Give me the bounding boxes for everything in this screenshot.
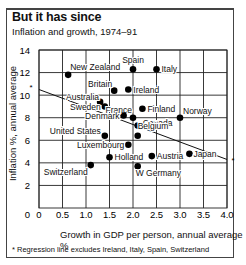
x-tick-label: 3.0 (173, 209, 186, 220)
data-point (139, 105, 146, 112)
x-tick-label: 1.0 (79, 209, 92, 220)
regression-asterisk: * (231, 156, 234, 165)
point-label: Ireland (133, 85, 159, 95)
y-tick-label: 2 (25, 180, 30, 191)
point-label: Switzerland (44, 167, 88, 177)
data-point (149, 153, 156, 160)
data-point (125, 142, 132, 149)
x-tick-label: 0.5 (56, 209, 69, 220)
x-tick-label: 1.5 (103, 209, 116, 220)
data-point (65, 72, 72, 79)
point-label: New Zealand (70, 62, 120, 72)
data-point (186, 151, 193, 158)
data-point (153, 66, 160, 73)
point-label: Japan (193, 149, 216, 159)
point-label: Spain (122, 55, 144, 65)
y-tick-label: 12 (19, 67, 30, 78)
x-tick-label: 4.0 (220, 209, 233, 220)
scatter-plot: 00.51.01.52.02.53.03.54.024681012140**Ne… (0, 0, 246, 265)
point-label: United States (50, 126, 101, 136)
data-point (106, 154, 113, 161)
point-label: Luxembourg (77, 140, 125, 150)
y-tick-label: 0 (25, 209, 30, 220)
point-label: Denmark (85, 111, 120, 121)
data-point (130, 114, 137, 121)
x-tick-label: 3.5 (197, 209, 210, 220)
point-label: Britain (88, 79, 112, 89)
regression-asterisk: * (29, 83, 32, 92)
data-point (87, 162, 94, 169)
point-label: Belgium (138, 121, 169, 131)
point-label: Italy (162, 64, 178, 74)
point-label: Australia (66, 92, 99, 102)
y-tick-label: 8 (25, 112, 30, 123)
point-label: W Germany (136, 168, 182, 178)
x-tick-label: 2.5 (150, 209, 163, 220)
point-label: Holland (115, 152, 144, 162)
y-tick-label: 14 (19, 45, 30, 56)
data-point (102, 132, 109, 139)
y-tick-label: 10 (19, 90, 30, 101)
x-tick-label: 0 (36, 209, 41, 220)
point-label: Finland (147, 104, 175, 114)
y-tick-label: 4 (25, 157, 30, 168)
x-tick-label: 2.0 (126, 209, 139, 220)
data-point (130, 66, 137, 73)
point-label: Austria (157, 151, 184, 161)
data-point (134, 132, 141, 139)
point-label: Norway (183, 106, 213, 116)
data-point (120, 112, 127, 119)
y-tick-label: 6 (25, 135, 30, 146)
data-point (125, 86, 132, 93)
